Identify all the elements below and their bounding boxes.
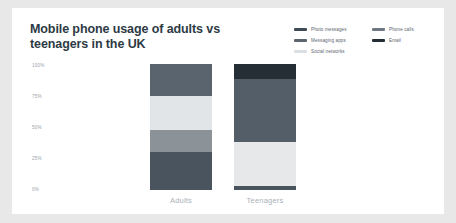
bar-teenagers[interactable] (234, 64, 296, 190)
bar-segment-social-networks[interactable] (234, 142, 296, 186)
plot-area: 100% 75% 50% 25% 0% Adults Teenagers (12, 8, 444, 214)
y-tick-0: 0% (32, 187, 62, 192)
bar-segment-photo-messages[interactable] (150, 64, 212, 96)
bar-segment-phone-calls[interactable] (150, 152, 212, 190)
chart-card: Mobile phone usage of adults vs teenager… (12, 8, 444, 214)
y-tick-75: 75% (32, 94, 62, 99)
y-tick-100: 100% (32, 63, 62, 68)
bar-segment-email[interactable] (234, 64, 296, 79)
bar-segment-messaging-apps[interactable] (234, 79, 296, 142)
y-tick-50: 50% (32, 125, 62, 130)
bar-segment-messaging-apps[interactable] (150, 130, 212, 153)
bar-adults[interactable] (150, 64, 212, 190)
bar-segment-social-networks[interactable] (150, 96, 212, 130)
x-label-teenagers: Teenagers (220, 196, 310, 205)
x-label-adults: Adults (136, 196, 226, 205)
bar-segment-phone-calls[interactable] (234, 186, 296, 190)
y-tick-25: 25% (32, 156, 62, 161)
